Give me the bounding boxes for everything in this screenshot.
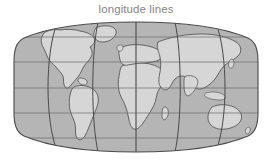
land-british-isles [117,45,123,51]
land-japan [229,59,235,68]
world-map-svg [0,0,272,163]
map-container [0,0,272,163]
figure-world-longitude-lines: longitude lines [0,0,272,163]
